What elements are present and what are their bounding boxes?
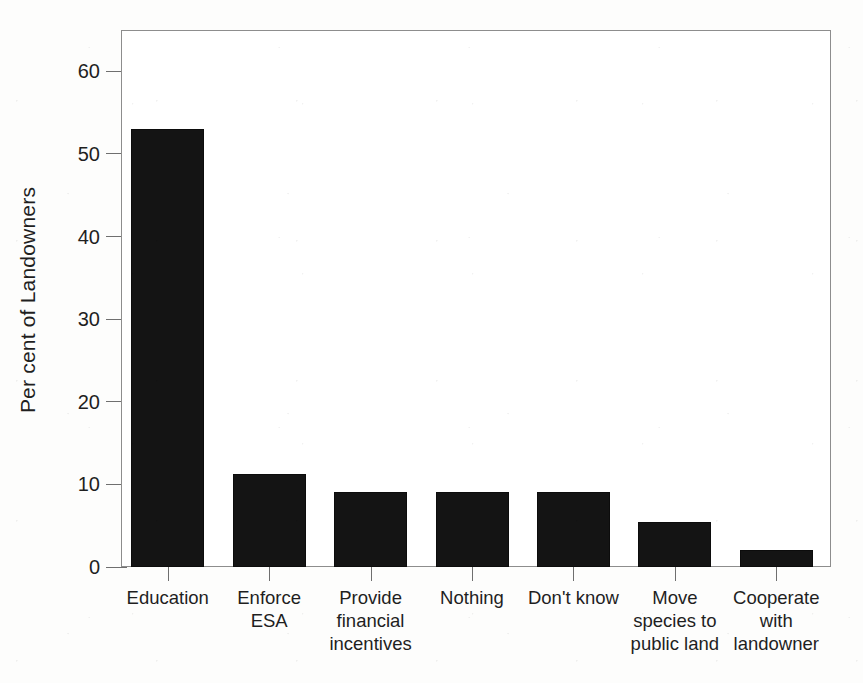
x-axis-tick-mark — [573, 567, 574, 581]
bar — [436, 492, 509, 567]
x-axis-tick-label: Cooperatewithlandowner — [712, 586, 840, 655]
x-axis-tick-mark — [472, 567, 473, 581]
x-axis-tick-mark — [776, 567, 777, 581]
bar — [740, 550, 813, 567]
bar — [537, 492, 610, 567]
x-axis-tick-mark — [168, 567, 169, 581]
y-axis-tick-label: 20 — [58, 392, 100, 412]
bar — [131, 129, 204, 567]
bar — [334, 492, 407, 567]
bar — [638, 522, 711, 567]
y-axis-tick-label: 40 — [58, 227, 100, 247]
y-axis-tick-label: 30 — [58, 309, 100, 329]
y-axis-tick-label: 10 — [58, 474, 100, 494]
x-axis-tick-label-line: financial — [307, 609, 435, 632]
y-axis-tick-label: 60 — [58, 61, 100, 81]
x-axis-tick-label-line: with — [712, 609, 840, 632]
bar — [233, 474, 306, 567]
y-axis-tick-label: 0 — [58, 557, 100, 577]
bars-layer — [121, 30, 831, 567]
x-axis-tick-label-line: landowner — [712, 632, 840, 655]
x-axis-tick-label-line: Cooperate — [712, 586, 840, 609]
x-axis-tick-label-line: incentives — [307, 632, 435, 655]
x-axis-tick-mark — [675, 567, 676, 581]
y-axis-tick-label: 50 — [58, 144, 100, 164]
y-axis-title: Per cent of Landowners — [6, 0, 50, 600]
x-axis-tick-mark — [371, 567, 372, 581]
bar-chart: Per cent of Landowners 0102030405060 Edu… — [0, 0, 863, 683]
x-axis-tick-mark — [269, 567, 270, 581]
